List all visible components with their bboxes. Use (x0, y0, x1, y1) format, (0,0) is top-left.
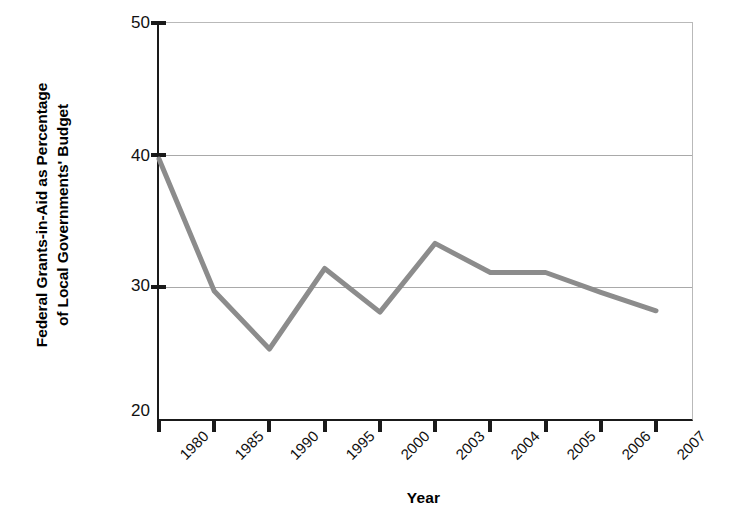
plot-area (157, 22, 693, 421)
data-series-line (159, 23, 692, 419)
y-tick-label-40: 40 (106, 147, 150, 164)
x-tick-label-1985: 1985 (232, 428, 266, 462)
y-axis-title-line-2: of Local Governments' Budget (52, 5, 73, 425)
y-axis-title: Federal Grants-in-Aid as Percentage of L… (31, 5, 75, 425)
x-tick-label-1980: 1980 (177, 428, 211, 462)
x-tick-label-2004: 2004 (508, 428, 542, 462)
y-axis-tick-labels: 50 40 30 20 (100, 0, 150, 520)
y-tick-label-50: 50 (106, 14, 150, 31)
x-tick-label-2006: 2006 (619, 428, 653, 462)
x-tick-label-1995: 1995 (342, 428, 376, 462)
x-tick-label-2005: 2005 (563, 428, 597, 462)
x-axis-title: Year (157, 489, 690, 507)
x-axis-tick-labels: 1980198519901995200020032004200520062007 (157, 428, 697, 498)
x-tick-label-2000: 2000 (398, 428, 432, 462)
x-tick-label-2007: 2007 (674, 428, 708, 462)
y-tick-label-20: 20 (106, 402, 150, 419)
chart-container: Federal Grants-in-Aid as Percentage of L… (0, 0, 736, 520)
x-tick-label-2003: 2003 (453, 428, 487, 462)
y-axis-title-line-1: Federal Grants-in-Aid as Percentage (31, 5, 52, 425)
y-tick-label-30: 30 (106, 277, 150, 294)
x-tick-label-1990: 1990 (287, 428, 321, 462)
